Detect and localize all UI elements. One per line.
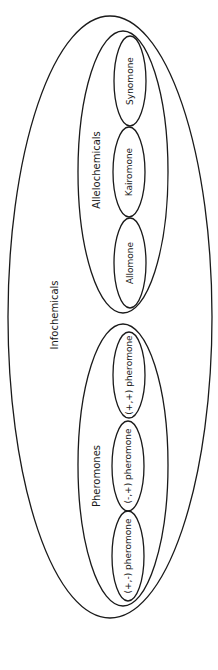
allomone-node: Allomone	[114, 218, 146, 308]
infochemicals-group: Infochemicals	[8, 16, 212, 618]
infochemicals-ellipse	[8, 16, 212, 618]
plus-plus-pheromone-label: (+,+) pheromone	[124, 335, 134, 415]
infochemicals-label: Infochemicals	[49, 280, 60, 349]
allelochemicals-group: Allelochemicals Synomone Kairomone Allom…	[78, 31, 168, 313]
synomone-node: Synomone	[114, 36, 146, 126]
plus-minus-pheromone-label: (+,-) pheromone	[123, 518, 133, 593]
synomone-label: Synomone	[125, 57, 135, 105]
infochemicals-diagram: Infochemicals Allelochemicals Synomone K…	[0, 0, 218, 670]
plus-minus-pheromone-node: (+,-) pheromone	[112, 511, 144, 601]
kairomone-label: Kairomone	[124, 147, 134, 196]
minus-plus-pheromone-label: (-,+) pheromone	[123, 428, 133, 503]
allelochemicals-label: Allelochemicals	[91, 131, 102, 209]
pheromones-label: Pheromones	[91, 445, 102, 507]
plus-plus-pheromone-node: (+,+) pheromone	[113, 332, 145, 418]
pheromones-group: Pheromones (+,+) pheromone (-,+) pheromo…	[78, 324, 168, 606]
kairomone-node: Kairomone	[113, 127, 145, 217]
minus-plus-pheromone-node: (-,+) pheromone	[112, 421, 144, 511]
allomone-label: Allomone	[125, 241, 135, 284]
